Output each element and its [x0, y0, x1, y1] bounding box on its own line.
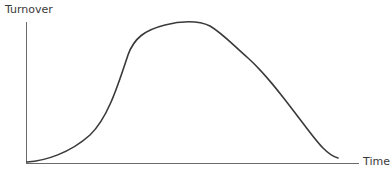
y-axis-label: Turnover — [5, 3, 53, 16]
chart-canvas — [0, 0, 392, 173]
line-chart: Turnover Time — [0, 0, 392, 173]
x-axis-label: Time — [363, 155, 390, 168]
turnover-curve — [27, 22, 338, 162]
